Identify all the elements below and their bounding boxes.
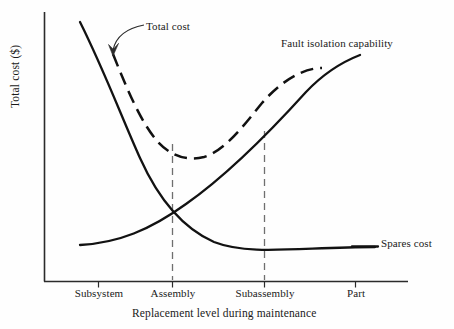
series-label-fault-isolation-capability: Fault isolation capability bbox=[281, 38, 393, 49]
x-tick-label-assembly: Assembly bbox=[144, 288, 202, 299]
chart-figure: Total cost ($) Replacement level during … bbox=[0, 0, 454, 329]
total-cost-leader-line bbox=[113, 25, 144, 50]
series-label-total-cost: Total cost bbox=[146, 21, 190, 32]
chart-plot-area bbox=[0, 0, 454, 329]
curve-total-cost-dashed bbox=[113, 54, 322, 158]
x-axis-title: Replacement level during maintenance bbox=[132, 308, 317, 320]
y-axis-title: Total cost ($) bbox=[10, 8, 22, 108]
curve-spares-cost bbox=[80, 22, 375, 250]
arrowhead-icon bbox=[109, 43, 119, 56]
x-tick-label-subsystem: Subsystem bbox=[68, 288, 130, 299]
series-label-spares-cost: Spares cost bbox=[381, 238, 432, 249]
x-tick-label-subassembly: Subassembly bbox=[228, 288, 302, 299]
x-tick-label-part: Part bbox=[334, 288, 378, 299]
